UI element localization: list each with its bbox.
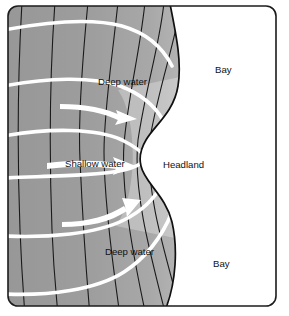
- label-deep-water-top: Deep water: [98, 76, 148, 87]
- wave-refraction-diagram: Deep water Shallow water Headland Bay Ba…: [0, 0, 289, 316]
- label-headland: Headland: [163, 159, 204, 170]
- label-shallow-water: Shallow water: [65, 158, 126, 169]
- label-bay-top: Bay: [215, 64, 232, 75]
- figure-root: Deep water Shallow water Headland Bay Ba…: [0, 0, 289, 316]
- depth-gradient-fill: [0, 0, 289, 316]
- label-bay-bottom: Bay: [213, 258, 230, 269]
- label-deep-water-bottom: Deep water: [105, 246, 155, 257]
- sea-fill-group: [0, 0, 289, 316]
- sea-layer: [0, 0, 289, 316]
